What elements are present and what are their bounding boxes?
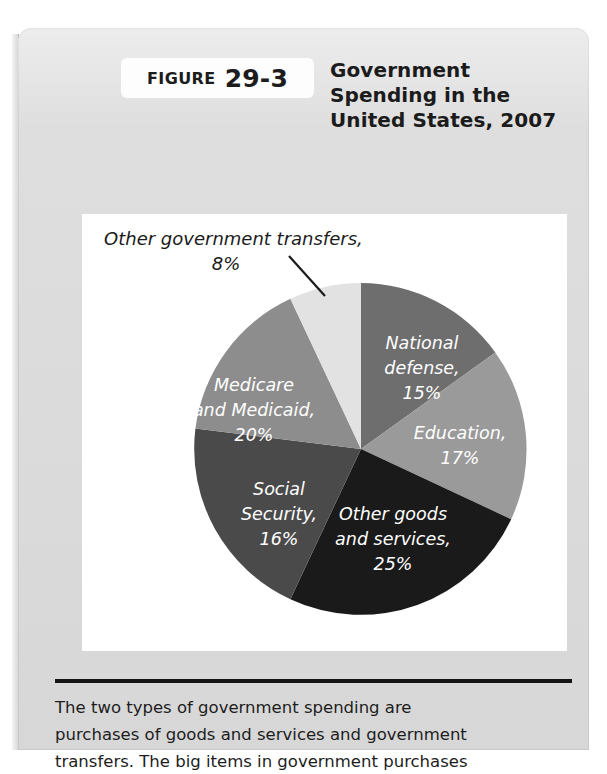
pie-label-other-goods-line-2: and services, — [335, 529, 451, 549]
pie-chart: National defense, 15% Education, 17% Oth… — [82, 214, 567, 651]
pie-label-medicare-line-1: Medicare — [214, 375, 294, 395]
pie-label-social-security-line-2: Security, — [241, 504, 317, 524]
pie-label-social-security-line-1: Social — [253, 479, 305, 499]
figure-card: FIGURE 29-3 Government Spending in the U… — [18, 28, 589, 750]
chart-plate: National defense, 15% Education, 17% Oth… — [82, 214, 567, 651]
caption-divider-rule — [55, 679, 572, 683]
pie-label-other-government-transfers: Other government transfers, 8% — [104, 228, 363, 274]
caption-line-2: purchases of goods and services and gove… — [55, 721, 575, 748]
pie-label-social-security-line-3: 16% — [260, 529, 299, 549]
pie-chart-svg: National defense, 15% Education, 17% Oth… — [82, 214, 567, 651]
figure-title: Government Spending in the United States… — [330, 58, 570, 133]
pie-label-other-transfers-line-2: 8% — [212, 253, 241, 274]
pie-label-national-defense-line-2: defense, — [384, 358, 459, 378]
pie-label-national-defense-line-3: 15% — [403, 383, 442, 403]
figure-label-number: 29-3 — [225, 64, 288, 93]
pie-label-other-transfers-line-1: Other government transfers, — [104, 228, 363, 249]
pie-label-medicare-line-2: and Medicaid, — [193, 400, 315, 420]
pie-label-education-line-1: Education, — [414, 423, 507, 443]
caption-text: The two types of government spending are… — [55, 694, 575, 774]
pie-label-other-goods-line-1: Other goods — [339, 504, 447, 524]
pie-label-national-defense-line-1: National — [386, 333, 459, 353]
pie-label-other-goods-line-3: 25% — [374, 554, 413, 574]
pie-label-medicare-line-3: 20% — [235, 425, 274, 445]
caption-line-3: transfers. The big items in government p… — [55, 748, 575, 774]
caption-line-1: The two types of government spending are — [55, 694, 575, 721]
callout-leader-line — [289, 256, 325, 296]
figure-number-tab: FIGURE 29-3 — [121, 58, 314, 98]
pie-label-education-line-2: 17% — [441, 448, 480, 468]
figure-label-word: FIGURE — [147, 69, 216, 88]
